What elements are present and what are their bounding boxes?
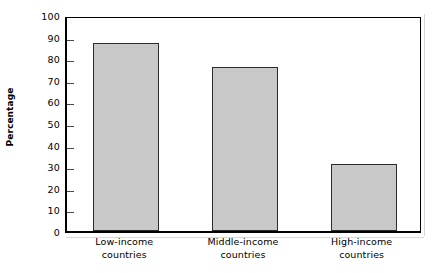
- y-axis-tick: [67, 83, 74, 84]
- x-axis-category-label-line2: countries: [65, 249, 184, 262]
- y-axis-tick: [67, 148, 74, 149]
- y-axis-tick-label: 10: [20, 206, 60, 216]
- y-axis-tick-label: 60: [20, 98, 60, 108]
- y-axis-tick-label: 30: [20, 163, 60, 173]
- y-axis-tick: [67, 169, 74, 170]
- y-axis-tick: [67, 126, 74, 127]
- y-axis-tick: [67, 40, 74, 41]
- y-axis-tick: [67, 212, 74, 213]
- x-axis-category-label: Middle-incomecountries: [184, 236, 303, 261]
- x-axis-category-labels: Low-incomecountriesMiddle-incomecountrie…: [65, 236, 421, 273]
- x-axis-category-label: High-incomecountries: [302, 236, 421, 261]
- y-axis-tick-label: 40: [20, 142, 60, 152]
- bar: [93, 43, 159, 231]
- bar: [212, 67, 278, 231]
- y-axis-title-text: Percentage: [5, 87, 15, 146]
- figure-edge-right: [424, 14, 425, 236]
- y-axis-tick-label: 80: [20, 55, 60, 65]
- bar: [331, 164, 397, 231]
- x-axis-category-label: Low-incomecountries: [65, 236, 184, 261]
- x-axis-category-label-line1: Low-income: [95, 236, 153, 247]
- y-axis-tick-label: 90: [20, 34, 60, 44]
- x-axis-category-label-line1: High-income: [331, 236, 392, 247]
- bar-fill: [94, 44, 158, 230]
- y-axis-tick: [67, 104, 74, 105]
- bar-fill: [213, 68, 277, 230]
- y-axis-tick-label: 70: [20, 77, 60, 87]
- y-axis-tick: [67, 191, 74, 192]
- x-axis-category-label-line2: countries: [302, 249, 421, 262]
- y-axis-tick: [67, 61, 74, 62]
- y-axis-tick-label: 0: [20, 228, 60, 238]
- bar-fill: [332, 165, 396, 230]
- y-axis-tick-label: 20: [20, 185, 60, 195]
- x-axis-category-label-line2: countries: [184, 249, 303, 262]
- y-axis-tick-labels: 0102030405060708090100: [20, 0, 60, 273]
- x-axis-category-label-line1: Middle-income: [208, 236, 279, 247]
- bar-chart: Percentage 0102030405060708090100 Low-in…: [0, 0, 435, 273]
- plot-area: [65, 17, 421, 233]
- y-axis-tick-label: 50: [20, 120, 60, 130]
- y-axis-tick-label: 100: [20, 12, 60, 22]
- y-axis-title: Percentage: [0, 0, 20, 233]
